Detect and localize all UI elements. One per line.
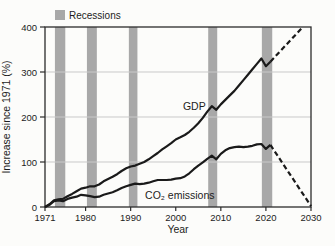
y-tick-label: 400: [21, 22, 37, 33]
y-tick-label: 0: [32, 202, 37, 213]
x-tick-label: 1990: [120, 212, 141, 223]
recession-gdp-co2-chart: 1971198019902000201020202030010020030040…: [0, 0, 335, 246]
x-tick-label: 2010: [210, 212, 231, 223]
y-tick-label: 300: [21, 67, 37, 78]
series-gdp-projection: [270, 27, 303, 62]
series-co-emissions-projection: [270, 145, 311, 206]
gdp-line-label: GDP: [183, 100, 206, 112]
legend-recessions-label: Recessions: [69, 10, 121, 21]
x-tick-label: 2030: [300, 212, 321, 223]
y-tick-label: 100: [21, 157, 37, 168]
y-tick-label: 200: [21, 112, 37, 123]
x-tick-label: 1980: [75, 212, 96, 223]
series-gdp: [45, 59, 270, 208]
y-axis-title: Increase since 1971 (%): [0, 60, 12, 173]
legend-recessions-swatch: [55, 10, 65, 20]
x-tick-label: 1971: [34, 212, 55, 223]
co2-line-label: CO₂ emissions: [145, 189, 214, 201]
x-tick-label: 2020: [255, 212, 276, 223]
x-tick-label: 2000: [165, 212, 186, 223]
chart-canvas: 1971198019902000201020202030010020030040…: [0, 0, 335, 246]
x-axis-title: Year: [167, 223, 189, 235]
